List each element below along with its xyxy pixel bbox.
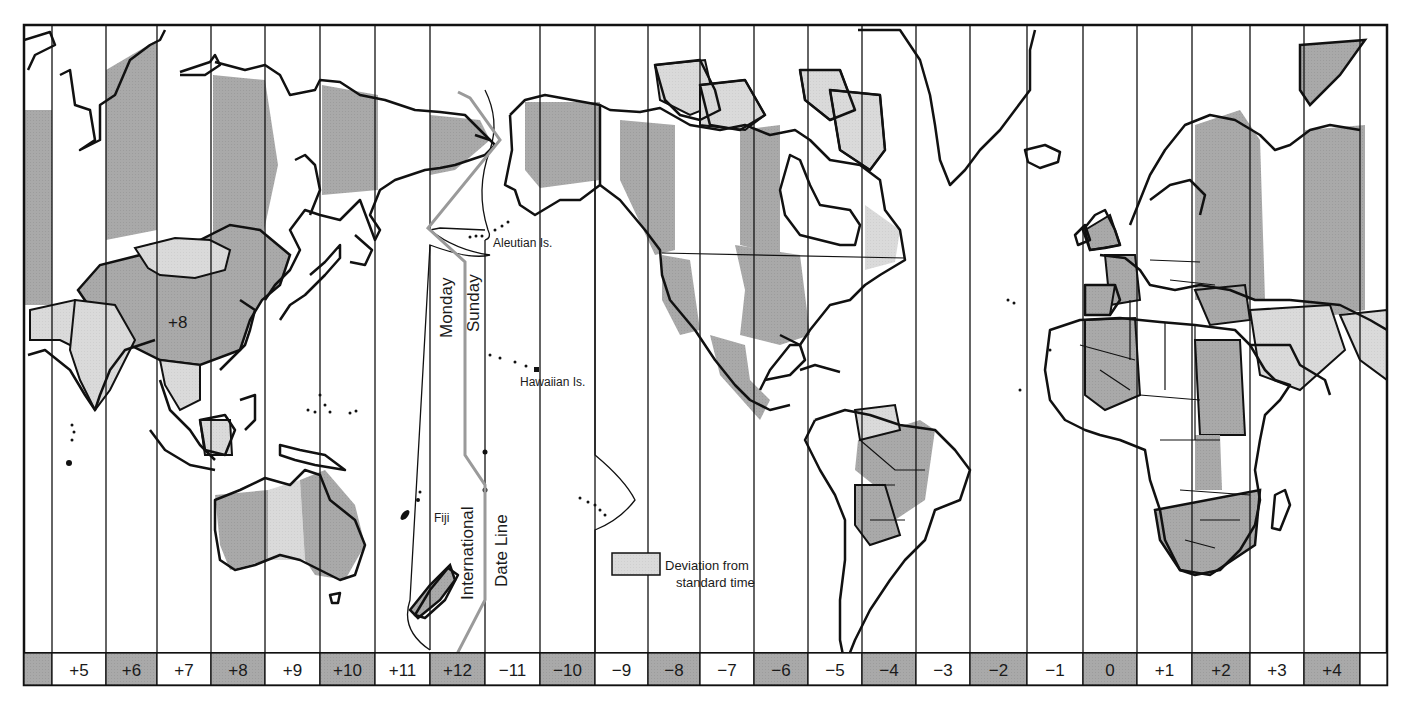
zone-offset-label: −8	[664, 661, 683, 680]
zone-offset-label: +2	[1211, 661, 1230, 680]
legend-line-2: standard time	[676, 575, 755, 590]
zone-offset-label: +4	[1322, 661, 1341, 680]
aleutian-label: Aleutian Is.	[493, 236, 552, 250]
china-offset-label: +8	[168, 313, 187, 332]
zone-offset-label: −10	[553, 661, 582, 680]
legend-swatch	[612, 553, 660, 575]
zone-offset-label: −11	[499, 661, 527, 680]
zone-offset-label: −9	[612, 661, 631, 680]
zone-offset-label: +9	[283, 661, 302, 680]
zone-offset-label: −2	[989, 661, 1008, 680]
sunday-label: Sunday	[464, 274, 483, 332]
zone-offset-label: −6	[771, 661, 790, 680]
zone-offset-label: −5	[825, 661, 844, 680]
monday-label: Monday	[437, 277, 456, 338]
international-label: International	[458, 506, 477, 600]
zone-offset-label: −7	[717, 661, 736, 680]
zone-offset-label: −1	[1045, 661, 1064, 680]
fiji-label: Fiji	[434, 511, 449, 525]
zone-offset-label: +12	[443, 661, 472, 680]
legend: Deviation from standard time	[612, 553, 755, 590]
zone-cell	[1360, 653, 1387, 685]
zone-offset-label: +5	[69, 661, 88, 680]
zone-offset-label: +7	[174, 661, 193, 680]
zone-offset-label: +6	[122, 661, 141, 680]
zone-offset-label: +8	[228, 661, 247, 680]
zone-offset-label: +3	[1267, 661, 1286, 680]
hawaiian-label: Hawaiian Is.	[520, 375, 585, 389]
zone-offset-label: +11	[389, 661, 417, 680]
zone-offset-label: +1	[1155, 661, 1174, 680]
zone-offset-label: 0	[1105, 661, 1114, 680]
zone-cell	[24, 653, 52, 685]
zone-offset-label: −3	[933, 661, 952, 680]
zone-strip: +5+6+7+8+9+10+11+12−11−10−9−8−7−6−5−4−3−…	[24, 653, 1387, 685]
date-line-label: Date Line	[492, 514, 511, 587]
zone-offset-label: +10	[333, 661, 362, 680]
legend-line-1: Deviation from	[665, 558, 749, 573]
zone-offset-label: −4	[879, 661, 898, 680]
time-zone-map: +5+6+7+8+9+10+11+12−11−10−9−8−7−6−5−4−3−…	[0, 0, 1413, 705]
